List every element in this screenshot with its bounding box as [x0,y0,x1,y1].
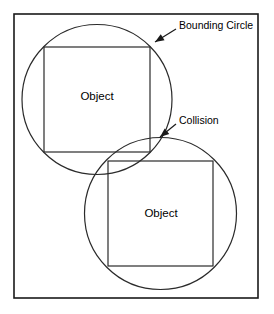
object-2-label: Object [144,207,178,219]
collision-callout-group: Collision [160,114,219,137]
bounding-circle-collision-diagram: Object Object Bounding Circle Collision [0,0,274,314]
diagram-canvas: Object Object Bounding Circle Collision [0,0,274,314]
diagram-border [14,14,258,298]
object-1-label: Object [80,90,114,102]
collision-arrow-icon [160,129,169,137]
bounding-circle-label: Bounding Circle [179,19,253,31]
collision-label: Collision [179,114,219,126]
bounding-circle-callout-group: Bounding Circle [155,19,253,42]
bounding-circle-arrow-icon [155,34,165,42]
